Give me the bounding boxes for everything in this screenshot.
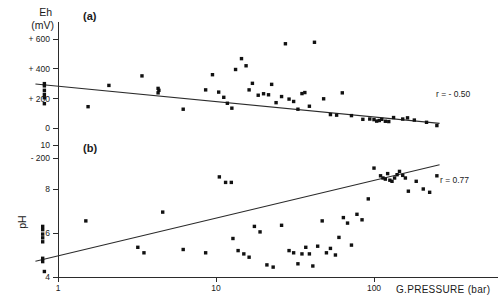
panel-b-data-point — [247, 256, 250, 259]
panel-b-data-point — [43, 270, 46, 273]
panel-b-data-point — [325, 251, 328, 254]
panel-a-data-point — [303, 91, 306, 94]
x-axis-tick-label: 100 — [367, 283, 381, 293]
panel-a-data-point — [313, 41, 316, 44]
panel-b-y-tick-label: 8 — [45, 184, 50, 194]
panel-a-data-point — [413, 118, 416, 121]
panel-b-data-point — [41, 232, 44, 235]
panel-a-data-point — [392, 116, 395, 119]
panel-b-data-point — [316, 245, 319, 248]
panel-a-data-point — [401, 117, 404, 120]
panel-b-data-point — [372, 166, 375, 169]
panel-b-data-point — [398, 170, 401, 173]
panel-b-data-point — [41, 240, 44, 243]
panel-b-data-point — [258, 230, 261, 233]
panel-b-y-tick-label: 4 — [45, 272, 50, 282]
panel-a-data-point — [156, 91, 159, 94]
panel-a-data-point — [329, 113, 332, 116]
scatter-plot-figure: + 600+ 400+ 2000- 200 10864110100 Eh(mV)… — [0, 0, 502, 304]
panel-b-data-point — [355, 213, 358, 216]
x-axis-title: G.PRESSURE (bar) — [396, 284, 490, 295]
panel-b-data-point — [350, 243, 353, 246]
panel-b-data-point — [329, 247, 332, 250]
panel-b-data-point — [308, 252, 311, 255]
panel-b-correlation-label: r = 0.77 — [440, 175, 469, 185]
x-axis-tick-label: 1 — [56, 283, 61, 293]
panel-b-data-point — [311, 264, 314, 267]
panel-a-data-point — [270, 83, 273, 86]
panel-b-regression-line — [35, 165, 439, 261]
panel-b-data-point — [304, 246, 307, 249]
panel-a-data-point — [287, 97, 290, 100]
panel-b: 10864110100 — [35, 140, 498, 293]
panel-a-data-point — [244, 64, 247, 67]
panel-b-data-point — [384, 177, 387, 180]
panel-a-data-point — [435, 124, 438, 127]
panel-b-data-point — [280, 224, 283, 227]
panel-b-data-point — [41, 228, 44, 231]
panel-b-data-point — [407, 190, 410, 193]
panel-b-data-point — [41, 236, 44, 239]
panel-a-data-point — [247, 88, 250, 91]
panel-a-data-point — [284, 42, 287, 45]
panel-a-y-axis-title-line1: Eh — [39, 6, 52, 18]
panel-a-data-point — [140, 74, 143, 77]
panel-b-data-point — [395, 173, 398, 176]
panel-b-data-point — [415, 180, 418, 183]
panel-a-data-point — [350, 114, 353, 117]
panel-a-data-point — [274, 101, 277, 104]
panel-a-y-axis-title-line2: (mV) — [31, 19, 54, 31]
panel-a-data-point — [308, 105, 311, 108]
panel-b-data-point — [224, 181, 227, 184]
panel-b-data-point — [360, 218, 363, 221]
panel-b-data-point — [84, 219, 87, 222]
figure-labels: Eh(mV)(a)(b)pHr = - 0.50r = 0.77G.PRESSU… — [16, 6, 490, 295]
panel-b-data-point — [435, 174, 438, 177]
panel-b-data-point — [367, 197, 370, 200]
panel-b-data-point — [300, 252, 303, 255]
panel-a-data-point — [280, 95, 283, 98]
panel-a-data-point — [43, 96, 46, 99]
panel-a-data-point — [341, 91, 344, 94]
panel-a-data-point — [217, 90, 220, 93]
panel-b-data-point — [346, 221, 349, 224]
panel-a-y-tick-label: + 600 — [28, 34, 50, 44]
panel-a-data-point — [226, 102, 229, 105]
panel-a-data-point — [107, 84, 110, 87]
panel-b-data-point — [242, 252, 245, 255]
panel-b-data-point — [41, 225, 44, 228]
panel-b-data-point — [393, 176, 396, 179]
panel-b-y-tick-label: 10 — [41, 140, 51, 150]
panel-a-data-point — [380, 118, 383, 121]
panel-a-data-point — [43, 84, 46, 87]
panel-b-data-point — [320, 219, 323, 222]
panel-a-data-point — [384, 120, 387, 123]
panel-a-data-point — [251, 82, 254, 85]
panel-a-data-point — [296, 108, 299, 111]
panel-a-data-point — [406, 116, 409, 119]
figure-container: + 600+ 400+ 2000- 200 10864110100 Eh(mV)… — [0, 0, 502, 304]
panel-a-data-point — [387, 120, 390, 123]
panel-a-label: (a) — [83, 10, 97, 22]
panel-b-data-point — [428, 191, 431, 194]
panel-b-data-point — [296, 262, 299, 265]
panel-a-y-tick-label: + 400 — [28, 64, 50, 74]
panel-a-data-point — [86, 105, 89, 108]
x-axis-tick-label: 10 — [211, 283, 221, 293]
panel-b-data-point — [292, 251, 295, 254]
panel-b-data-point — [161, 210, 164, 213]
panel-b-data-point — [287, 249, 290, 252]
panel-b-data-point — [404, 176, 407, 179]
panel-b-data-point — [230, 181, 233, 184]
panel-a-data-point — [425, 121, 428, 124]
panel-b-data-point — [136, 246, 139, 249]
panel-b-data-point — [271, 265, 274, 268]
panel-a-regression-line — [35, 84, 439, 123]
panel-a-y-tick-label: 0 — [45, 123, 50, 133]
panel-b-y-axis-title: pH — [16, 215, 28, 228]
panel-b-label: (b) — [83, 142, 97, 154]
panel-a-data-point — [335, 113, 338, 116]
panel-a-y-tick-label: + 200 — [28, 94, 50, 104]
panel-a-y-tick-label: - 200 — [31, 153, 51, 163]
panel-a-data-point — [211, 73, 214, 76]
